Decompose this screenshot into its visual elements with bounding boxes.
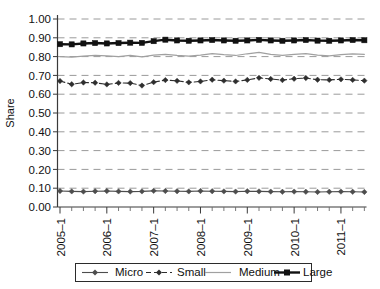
x-axis-tick-label: 2005–1 [55,218,67,256]
y-axis-tick-label: 1.00 [29,13,51,25]
y-axis-tick-label: 0.30 [29,145,51,157]
data-point-marker [268,38,273,43]
y-axis-tick-label: 0.00 [29,201,51,213]
y-axis-tick-label: 0.80 [29,51,51,63]
data-point-marker [186,38,191,43]
share-line-chart: 0.000.100.200.300.400.500.600.700.800.90… [0,0,380,289]
data-point-marker [139,40,144,45]
data-point-marker [81,41,86,46]
y-axis-title: Share [4,98,16,127]
data-point-marker [292,38,297,43]
data-point-marker [69,42,74,47]
data-point-marker [245,38,250,43]
data-point-marker [233,38,238,43]
x-axis-tick-label: 2008–1 [195,218,207,256]
y-axis-tick-label: 0.60 [29,88,51,100]
data-point-marker [303,37,308,42]
data-point-marker [163,37,168,42]
x-axis-tick-label: 2006–1 [101,218,113,256]
x-axis-tick-label: 2007–1 [148,218,160,256]
x-axis-tick-label: 2010–1 [289,218,301,256]
data-point-marker [198,38,203,43]
data-point-marker [57,42,62,47]
y-axis-title-text: Share [4,98,16,127]
data-point-marker [116,40,121,45]
y-axis-tick-label: 0.40 [29,126,51,138]
legend-swatch-marker [284,270,290,276]
chart-legend: MicroSmallMediumLarge [76,264,333,282]
data-point-marker [350,37,355,42]
data-point-marker [362,38,367,43]
y-axis-tick-labels: 0.000.100.200.300.400.500.600.700.800.90… [29,13,51,213]
legend-label: Micro [115,266,143,278]
data-point-marker [128,40,133,45]
data-point-marker [338,38,343,43]
x-axis-tick-label: 2009–1 [242,218,254,256]
y-axis-tick-label: 0.10 [29,182,51,194]
y-axis-tick-label: 0.20 [29,164,51,176]
y-axis-tick-label: 0.90 [29,32,51,44]
y-axis-tick-label: 0.50 [29,107,51,119]
data-point-marker [221,38,226,43]
data-point-marker [280,38,285,43]
data-point-marker [210,37,215,42]
data-point-marker [104,41,109,46]
data-point-marker [174,38,179,43]
data-point-marker [93,40,98,45]
x-axis-tick-label: 2011–1 [335,218,347,256]
data-point-marker [315,38,320,43]
legend-label: Large [303,266,332,278]
legend-label: Small [177,266,206,278]
y-axis-tick-label: 0.70 [29,70,51,82]
data-point-marker [256,37,261,42]
data-point-marker [327,38,332,43]
legend-label: Medium [239,266,280,278]
data-point-marker [151,39,156,44]
